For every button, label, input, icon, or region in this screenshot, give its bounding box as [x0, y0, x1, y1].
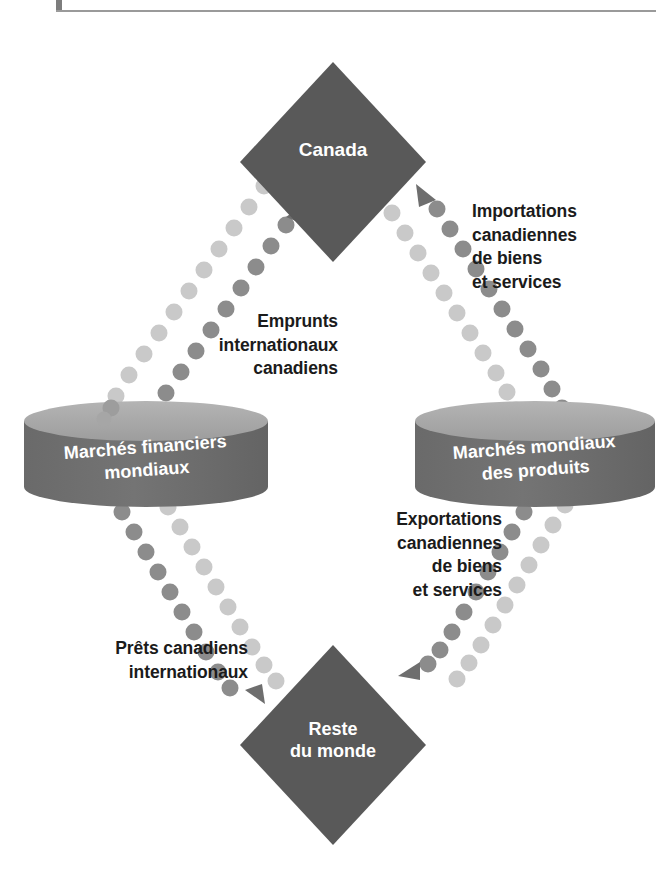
flow-label-imports: Importations canadiennes de biens et ser… [472, 200, 662, 295]
flow-arrowhead-loans [245, 684, 265, 704]
node-label-rest-of-world: Reste du monde [243, 719, 423, 763]
flow-label-borrowings: Emprunts internationaux canadiens [178, 310, 338, 381]
flow-label-exports: Exportations canadiennes de biens et ser… [370, 508, 502, 603]
flow-arrowhead-exports [398, 662, 420, 680]
flow-borrowings-dotted-path [108, 178, 309, 421]
diagram-page: Canada Reste du monde Marchés financiers… [0, 0, 667, 873]
node-label-canada: Canada [243, 138, 423, 161]
flow-label-loans: Prêts canadiens internationaux [50, 637, 248, 684]
